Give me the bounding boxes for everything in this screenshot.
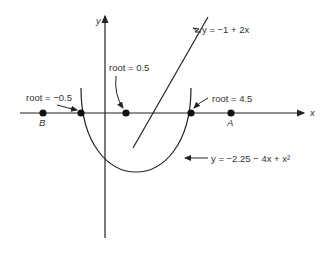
root-point-4-5 bbox=[187, 109, 194, 116]
diagram-canvas bbox=[0, 0, 328, 254]
x-axis-label: x bbox=[310, 108, 315, 118]
arrow-root-4-5 bbox=[194, 98, 208, 108]
arrow-root-0-5 bbox=[116, 76, 123, 108]
root-neg-0-5-label: root = −0.5 bbox=[26, 93, 72, 103]
arrow-root-neg-0-5 bbox=[57, 105, 77, 110]
y-axis-label: y bbox=[96, 16, 101, 26]
root-point-0-5 bbox=[122, 109, 129, 116]
parabola-equation-label: y = −2.25 − 4x + x² bbox=[211, 154, 290, 164]
point-a bbox=[227, 109, 234, 116]
parabola-curve bbox=[81, 88, 191, 172]
linear-function-line bbox=[133, 17, 208, 148]
point-a-label: A bbox=[227, 118, 233, 128]
root-0-5-label: root = 0.5 bbox=[109, 63, 149, 73]
root-point-neg-0-5 bbox=[77, 109, 84, 116]
root-4-5-label: root = 4.5 bbox=[212, 94, 252, 104]
point-b-label: B bbox=[39, 118, 45, 128]
point-b bbox=[39, 109, 46, 116]
line-equation-label: y = −1 + 2x bbox=[202, 25, 249, 35]
